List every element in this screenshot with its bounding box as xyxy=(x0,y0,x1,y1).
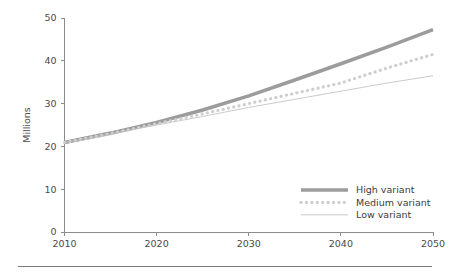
y-tick-label: 20 xyxy=(44,141,56,152)
y-tick-label: 10 xyxy=(44,184,56,195)
y-tick-label: 50 xyxy=(44,12,56,23)
y-tick-group: 01020304050 xyxy=(44,12,64,237)
series-line-2 xyxy=(65,76,434,143)
x-tick-group: 20102020203020402050 xyxy=(52,232,445,249)
legend-label-2: Low variant xyxy=(356,209,412,220)
x-tick-label: 2020 xyxy=(145,238,169,249)
y-tick-label: 40 xyxy=(44,55,56,66)
series-line-0 xyxy=(65,30,434,143)
x-tick-label: 2040 xyxy=(329,238,353,249)
chart-figure: 01020304050 20102020203020402050 Million… xyxy=(0,0,450,276)
y-axis-title: Millions xyxy=(21,107,32,143)
x-tick-label: 2030 xyxy=(237,238,261,249)
x-tick-label: 2050 xyxy=(421,238,445,249)
legend-label-1: Medium variant xyxy=(356,197,431,208)
y-tick-label: 30 xyxy=(44,98,56,109)
line-chart: 01020304050 20102020203020402050 Million… xyxy=(0,0,450,276)
legend-label-0: High variant xyxy=(356,184,415,195)
chart-legend: High variantMedium variantLow variant xyxy=(301,184,431,220)
series-group xyxy=(65,30,434,143)
x-tick-label: 2010 xyxy=(52,238,76,249)
y-tick-label: 0 xyxy=(50,226,56,237)
